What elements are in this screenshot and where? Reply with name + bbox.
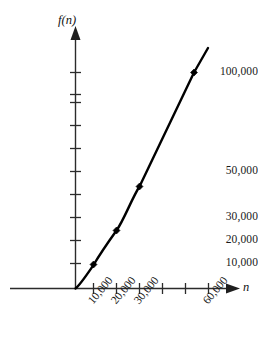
y-axis-label-30000: 30,000 (190, 211, 258, 223)
y-axis-label-10000: 10,000 (190, 257, 258, 269)
y-axis-label-50000: 50,000 (190, 165, 258, 177)
y-axis-label-20000: 20,000 (190, 234, 258, 246)
y-axis-label-100000: 100,000 (190, 66, 258, 78)
x-axis-arrow-icon (226, 284, 240, 294)
y-axis-arrow-icon (71, 26, 81, 40)
x-axis-title: n (243, 281, 249, 294)
chart-figure: 100,000 50,000 30,000 20,000 10,000 10,0… (0, 0, 258, 338)
y-axis-title: f(n) (58, 14, 76, 27)
data-curve-f-of-n (76, 48, 209, 289)
